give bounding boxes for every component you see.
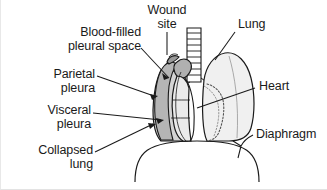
leader-collapsed-lung <box>95 124 153 152</box>
label-parietal-pleura: Parietal pleura <box>9 68 95 95</box>
pneumothorax-figure: Wound site Blood-filled pleural space Pa… <box>0 0 327 190</box>
leader-blood-filled-pleural-space <box>141 48 169 78</box>
label-diaphragm: Diaphragm <box>256 128 316 142</box>
label-collapsed-lung: Collapsed lung <box>7 144 93 171</box>
leader-visceral-pleura <box>93 113 161 120</box>
label-blood-filled-pleural-space: Blood-filled pleural space <box>19 26 141 53</box>
label-heart: Heart <box>259 80 289 94</box>
label-lung: Lung <box>238 18 265 32</box>
leader-diaphragm-fork <box>233 141 241 158</box>
leader-parietal-pleura <box>97 76 154 96</box>
label-visceral-pleura: Visceral pleura <box>3 104 91 131</box>
